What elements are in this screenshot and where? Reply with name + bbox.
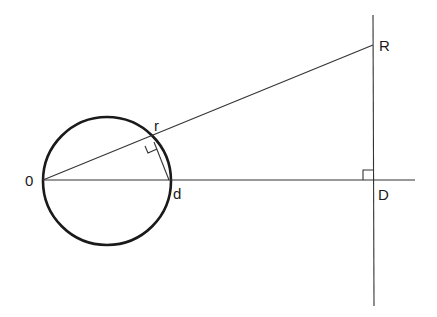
label-d: d — [173, 185, 181, 202]
geometry-diagram: 0 r d R D — [0, 0, 437, 317]
vertical-line — [373, 15, 374, 306]
label-r: r — [154, 117, 159, 134]
right-angle-marker-D — [363, 170, 373, 180]
right-angle-marker-r — [145, 146, 157, 153]
label-origin: 0 — [25, 172, 33, 189]
circle — [43, 117, 171, 245]
label-D: D — [378, 186, 389, 203]
label-R: R — [379, 37, 390, 54]
line-O-to-R — [43, 45, 373, 180]
